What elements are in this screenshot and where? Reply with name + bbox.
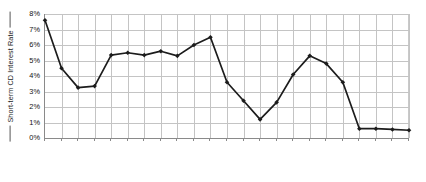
gridline-vertical (409, 14, 410, 138)
x-axis-tick-mark (143, 138, 144, 141)
x-axis-tick-label: 2012 (411, 180, 418, 182)
x-axis-tick-label: 2007 (328, 180, 335, 182)
x-axis-tick-label: 1996 (146, 180, 153, 182)
x-axis-tick-label: 1994 (113, 180, 120, 182)
chart-figure: Short-term CD Interest Rate 0%1%2%3%4%5%… (0, 0, 426, 182)
x-axis-tick-label: 2010 (378, 180, 385, 182)
x-axis-tick-mark (309, 138, 310, 141)
x-axis-tick-mark (342, 138, 343, 141)
y-axis-title-rule-right (10, 11, 11, 27)
y-axis-tick-label: 6% (29, 41, 40, 48)
x-axis-tick-mark (276, 138, 277, 141)
x-axis-tick-mark (292, 138, 293, 141)
x-axis-tick-mark (375, 138, 376, 141)
x-axis-tick-label: 2009 (361, 180, 368, 182)
y-axis-tick-label: 2% (29, 103, 40, 110)
x-axis-tick-label: 2005 (295, 180, 302, 182)
x-axis-tick-label: 2011 (394, 180, 401, 182)
x-axis-tick-mark (193, 138, 194, 141)
y-axis-tick-label: 5% (29, 57, 40, 64)
x-axis-tick-label: 2002 (246, 180, 253, 182)
data-series-line (45, 14, 409, 138)
x-axis-tick-mark (226, 138, 227, 141)
x-axis-tick-mark (77, 138, 78, 141)
x-axis-tick-labels: 1990199119921993199419951996199719981999… (44, 140, 408, 182)
y-axis-tick-label: 1% (29, 119, 40, 126)
data-point-marker (374, 126, 379, 131)
x-axis-tick-label: 1992 (80, 180, 87, 182)
y-axis-title: Short-term CD Interest Rate (0, 0, 20, 152)
x-axis-tick-mark (408, 138, 409, 141)
x-axis-tick-label: 1997 (163, 180, 170, 182)
x-axis-tick-label: 2006 (312, 180, 319, 182)
x-axis-tick-mark (358, 138, 359, 141)
x-axis-tick-mark (160, 138, 161, 141)
plot-area (44, 14, 409, 139)
series-polyline (45, 20, 409, 130)
data-point-marker (390, 127, 395, 132)
data-point-marker (43, 18, 48, 23)
data-point-marker (125, 50, 130, 55)
x-axis-tick-label: 2003 (262, 180, 269, 182)
y-axis-tick-label: 4% (29, 72, 40, 79)
x-axis-tick-mark (209, 138, 210, 141)
y-axis-tick-labels: 0%1%2%3%4%5%6%7%8% (20, 0, 42, 152)
y-axis-tick-label: 8% (29, 10, 40, 17)
data-point-marker (159, 49, 164, 54)
x-axis-tick-label: 2004 (279, 180, 286, 182)
y-axis-title-inner: Short-term CD Interest Rate (6, 11, 15, 141)
x-axis-tick-mark (176, 138, 177, 141)
x-axis-tick-label: 2008 (345, 180, 352, 182)
y-axis-title-text: Short-term CD Interest Rate (6, 30, 15, 122)
x-axis-tick-label: 1990 (47, 180, 54, 182)
x-axis-tick-mark (110, 138, 111, 141)
x-axis-tick-mark (94, 138, 95, 141)
x-axis-tick-mark (325, 138, 326, 141)
data-point-marker (357, 126, 362, 131)
x-axis-tick-label: 2001 (229, 180, 236, 182)
x-axis-tick-mark (127, 138, 128, 141)
y-axis-tick-label: 3% (29, 88, 40, 95)
x-axis-tick-label: 1991 (64, 180, 71, 182)
y-axis-tick-label: 0% (29, 134, 40, 141)
x-axis-tick-label: 1993 (97, 180, 104, 182)
y-axis-tick-label: 7% (29, 26, 40, 33)
x-axis-tick-mark (243, 138, 244, 141)
x-axis-tick-label: 1998 (179, 180, 186, 182)
y-axis-title-rule-left (10, 125, 11, 141)
x-axis-tick-mark (391, 138, 392, 141)
x-axis-tick-label: 2000 (212, 180, 219, 182)
x-axis-tick-mark (44, 138, 45, 141)
x-axis-tick-label: 1995 (130, 180, 137, 182)
data-point-marker (407, 128, 412, 133)
x-axis-tick-mark (259, 138, 260, 141)
x-axis-tick-mark (61, 138, 62, 141)
data-point-marker (142, 53, 147, 58)
x-axis-tick-label: 1999 (196, 180, 203, 182)
